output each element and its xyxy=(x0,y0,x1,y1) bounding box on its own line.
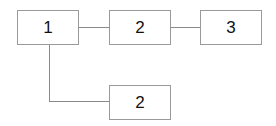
node-1-label: 1 xyxy=(43,18,52,38)
connector-1-to-2 xyxy=(79,27,109,28)
node-2-bottom-label: 2 xyxy=(135,93,144,113)
node-2-top: 2 xyxy=(109,10,171,45)
connector-1-to-2b-horizontal xyxy=(49,101,109,102)
node-2-top-label: 2 xyxy=(135,18,144,38)
node-3: 3 xyxy=(200,10,262,45)
connector-1-to-2b-vertical xyxy=(49,45,50,102)
connector-2-to-3 xyxy=(171,27,200,28)
node-2-bottom: 2 xyxy=(109,85,171,120)
node-1: 1 xyxy=(17,10,79,45)
node-3-label: 3 xyxy=(226,18,235,38)
